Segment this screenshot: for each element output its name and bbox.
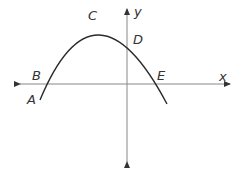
point-label-c: C: [88, 8, 98, 23]
point-label-b: B: [32, 68, 41, 83]
parabola-curve: [40, 35, 167, 104]
point-label-a: A: [26, 92, 36, 107]
coordinate-diagram: C y D B E x A: [0, 0, 242, 172]
y-axis-label: y: [133, 4, 142, 19]
point-label-e: E: [157, 68, 166, 83]
point-label-d: D: [133, 32, 143, 47]
x-axis-label: x: [218, 69, 227, 84]
